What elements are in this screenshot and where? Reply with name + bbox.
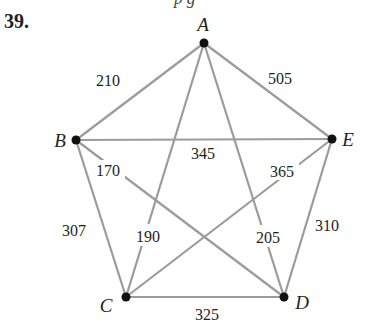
weight-b-d: 170 xyxy=(96,162,120,179)
weight-b-c: 307 xyxy=(62,222,86,239)
edge-a-c xyxy=(126,43,204,297)
node-label-c: C xyxy=(100,295,113,316)
weight-c-d: 325 xyxy=(195,306,219,323)
edge-a-e xyxy=(204,43,332,139)
graph-diagram: 210 505 345 170 365 307 190 205 310 325 … xyxy=(0,0,369,331)
edge-a-b xyxy=(76,43,204,140)
node-a xyxy=(200,39,209,48)
node-label-a: A xyxy=(195,14,209,35)
weight-e-d: 310 xyxy=(315,217,339,234)
node-e xyxy=(328,135,337,144)
weight-a-e: 505 xyxy=(268,70,292,87)
edge-e-c xyxy=(126,139,332,297)
weight-e-c: 365 xyxy=(270,163,294,180)
node-d xyxy=(280,293,289,302)
edge-b-e xyxy=(76,139,332,140)
weight-labels: 210 505 345 170 365 307 190 205 310 325 xyxy=(62,70,339,323)
weight-a-b: 210 xyxy=(96,72,120,89)
node-c xyxy=(122,293,131,302)
weight-a-d: 205 xyxy=(256,229,280,246)
node-b xyxy=(72,136,81,145)
node-label-d: D xyxy=(294,292,309,313)
node-label-e: E xyxy=(341,129,354,150)
node-label-b: B xyxy=(54,130,66,151)
weight-b-e: 345 xyxy=(191,145,215,162)
weight-a-c: 190 xyxy=(136,228,160,245)
